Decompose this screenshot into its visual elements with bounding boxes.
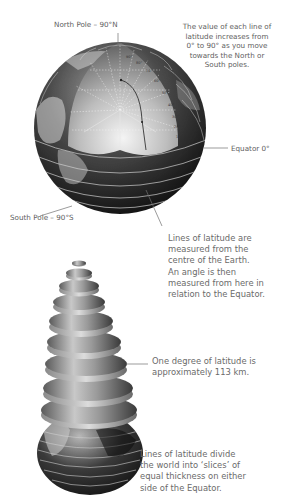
latitude-slices [37,261,143,495]
south-pole-label: South Pole – 90°S [10,213,74,223]
degree-distance-note: One degree of latitude is approximately … [152,356,256,378]
latitude-slices-note: Lines of latitude divide the world into … [140,449,246,494]
svg-text:30°: 30° [172,115,178,119]
svg-text:10°: 10° [176,135,182,139]
svg-text:20°: 20° [174,125,180,129]
latitude-increase-note: The value of each line of latitude incre… [168,22,286,70]
svg-text:80°: 80° [136,61,142,65]
svg-text:40°: 40° [168,103,174,107]
equator-label: Equator 0° [231,144,270,154]
tick-90: 90° [126,55,132,59]
latitude-measure-note: Lines of latitude are measured from the … [168,233,265,300]
svg-text:60°: 60° [154,79,160,83]
svg-text:70°: 70° [146,69,152,73]
svg-text:50°: 50° [162,91,168,95]
north-pole-label: North Pole – 90°N [54,20,118,30]
